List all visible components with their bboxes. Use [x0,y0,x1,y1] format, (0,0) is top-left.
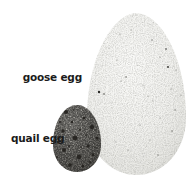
goose-egg-image [87,13,186,175]
goose-egg-label: goose egg [23,71,82,84]
egg-size-comparison-figure: goose egg quail egg [0,0,194,183]
quail-egg-label: quail egg [11,132,64,145]
eggs-illustration [0,0,194,183]
